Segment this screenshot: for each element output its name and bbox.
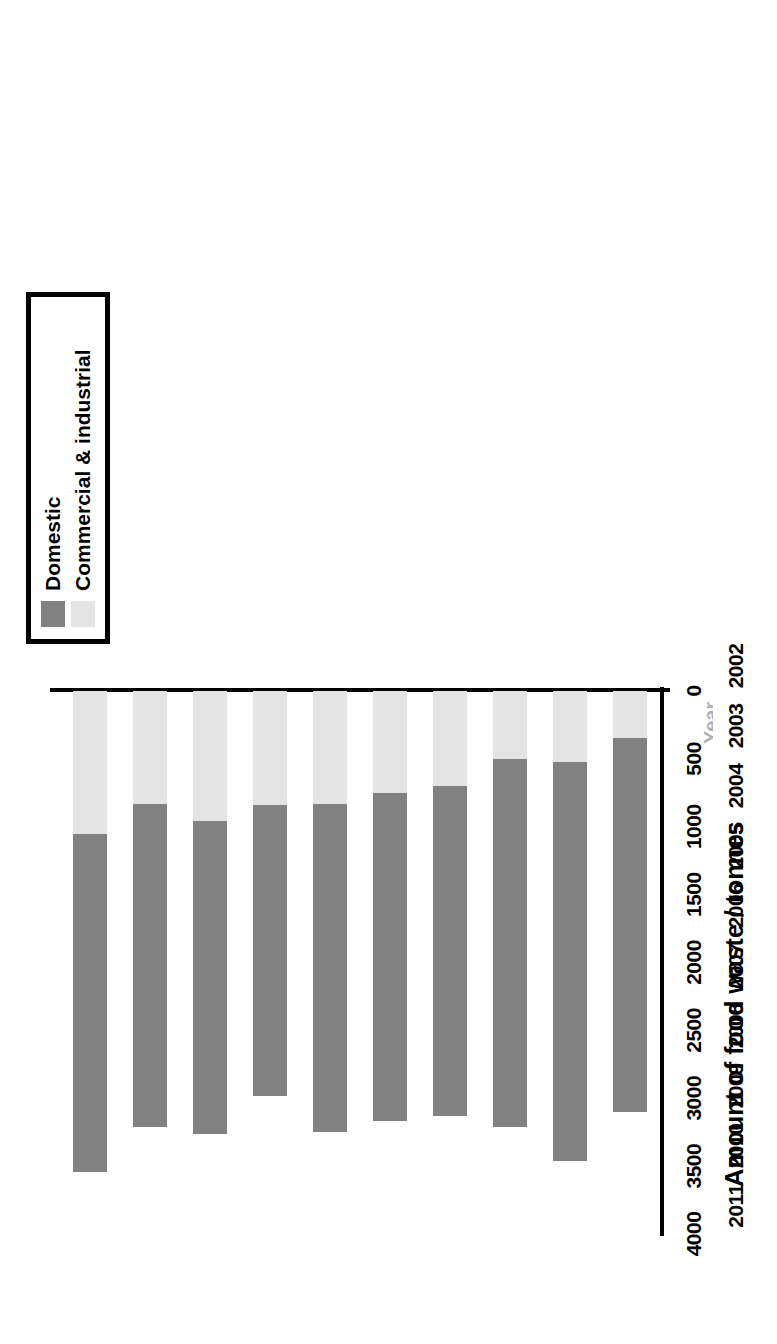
category-axis-title: Year	[700, 702, 713, 744]
value-tick-label: 3500	[682, 1144, 706, 1189]
value-tick-label: 2000	[682, 940, 706, 985]
year-tick-label: 2002	[724, 644, 748, 689]
value-tick-label: 4000	[682, 1212, 706, 1257]
value-tick-label: 500	[682, 742, 706, 776]
legend-swatch-icon-commercial-industrial	[71, 601, 95, 627]
plot-area: 05001000150020002500300035004000	[60, 691, 660, 1234]
category-axis-line	[660, 687, 664, 1236]
legend-swatch-icon-domestic	[41, 601, 65, 627]
value-tick-label: 0	[682, 685, 706, 696]
rotated-chart-stage: 05001000150020002500300035004000 2002200…	[0, 0, 777, 1344]
chart-legend: Domestic Commercial & industrial	[26, 292, 110, 644]
value-axis-ticks: 05001000150020002500300035004000	[60, 691, 660, 1234]
legend-label-commercial-industrial: Commercial & industrial	[71, 349, 95, 591]
legend-item-domestic: Domestic	[41, 311, 65, 627]
value-tick-label: 2500	[682, 1008, 706, 1053]
legend-item-commercial-industrial: Commercial & industrial	[71, 311, 95, 627]
value-tick-label: 1500	[682, 872, 706, 917]
value-tick-label: 3000	[682, 1076, 706, 1121]
value-axis-title: Amount of food waste / tonnes	[720, 724, 749, 1284]
legend-label-domestic: Domestic	[41, 496, 65, 591]
chart-plot-wrapper: 05001000150020002500300035004000 2002200…	[0, 0, 777, 1344]
value-tick-label: 1000	[682, 804, 706, 849]
